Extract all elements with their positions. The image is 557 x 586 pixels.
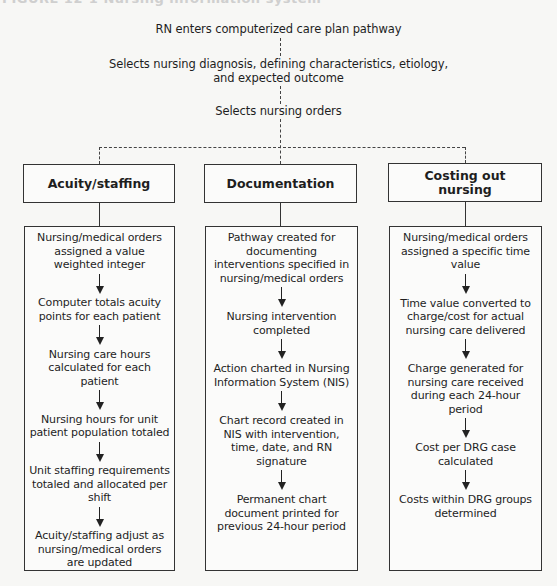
step-select-orders: Selects nursing orders [0, 104, 557, 118]
arrow-down-icon [277, 287, 286, 307]
arrow-down-icon [461, 339, 470, 359]
connector-dashed-right [465, 147, 466, 163]
acuity-step-4: Nursing hours for unit patient populatio… [25, 413, 174, 440]
figure-caption: FIGURE 12-1 Nursing information system [2, 0, 321, 6]
header-documentation: Documentation [204, 164, 357, 203]
step-enter-care-plan: RN enters computerized care plan pathway [0, 22, 557, 36]
arrow-down-icon [461, 274, 470, 294]
documentation-step-5: Permanent chart document printed for pre… [206, 493, 357, 534]
costing-step-5: Costs within DRG groups determined [390, 493, 541, 520]
acuity-step-3: Nursing care hours calculated for each p… [25, 348, 174, 389]
arrow-down-icon [277, 391, 286, 411]
costing-step-2: Time value converted to charge/cost for … [390, 297, 541, 338]
header-costing-label: Costing out nursing [420, 169, 510, 197]
documentation-step-3: Action charted in Nursing Information Sy… [206, 362, 357, 389]
arrow-down-icon [95, 325, 104, 345]
connector-documentation [280, 203, 281, 226]
connector-dashed-1 [280, 38, 281, 56]
panel-documentation: Pathway created for documenting interven… [205, 226, 358, 571]
connector-dashed-left [99, 147, 100, 164]
documentation-step-2: Nursing intervention completed [206, 310, 357, 337]
acuity-step-2: Computer totals acuity points for each p… [25, 296, 174, 323]
acuity-step-1: Nursing/medical orders assigned a value … [25, 231, 174, 272]
header-acuity-staffing: Acuity/staffing [23, 164, 175, 203]
header-documentation-label: Documentation [227, 177, 335, 191]
arrow-down-icon [461, 418, 470, 438]
connector-acuity [99, 203, 100, 226]
header-costing-out-nursing: Costing out nursing [388, 163, 542, 202]
costing-step-4: Cost per DRG case calculated [390, 441, 541, 468]
costing-step-1: Nursing/medical orders assigned a specif… [390, 231, 541, 272]
connector-dashed-center [280, 119, 281, 164]
panel-acuity-staffing: Nursing/medical orders assigned a value … [24, 226, 175, 571]
arrow-down-icon [95, 507, 104, 527]
costing-step-3: Charge generated for nursing care receiv… [390, 362, 541, 416]
documentation-step-1: Pathway created for documenting interven… [206, 231, 357, 285]
acuity-step-6: Acuity/staffing adjust as nursing/medica… [25, 529, 174, 570]
arrow-down-icon [95, 442, 104, 462]
arrow-down-icon [461, 470, 470, 490]
header-acuity-staffing-label: Acuity/staffing [48, 177, 151, 191]
step-select-diagnosis-line1: Selects nursing diagnosis, defining char… [0, 57, 557, 71]
documentation-step-4: Chart record created in NIS with interve… [206, 414, 357, 468]
acuity-step-5: Unit staffing requirements totaled and a… [25, 464, 174, 505]
arrow-down-icon [95, 274, 104, 294]
arrow-down-icon [277, 470, 286, 490]
connector-costing [465, 202, 466, 226]
step-select-diagnosis-line2: and expected outcome [0, 71, 557, 85]
arrow-down-icon [95, 390, 104, 410]
arrow-down-icon [277, 339, 286, 359]
panel-costing-out-nursing: Nursing/medical orders assigned a specif… [389, 226, 542, 571]
connector-dashed-horizontal [99, 147, 465, 148]
connector-dashed-2 [280, 86, 281, 104]
